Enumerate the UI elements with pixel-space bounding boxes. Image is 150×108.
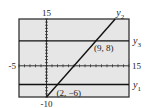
plot-frame	[19, 19, 129, 97]
ymin-label: -10	[41, 99, 53, 108]
plot-svg: 15 -10 -5 15 (9, 8) (2, −6) y1y2y3	[0, 0, 150, 108]
series-y3-label: y3	[132, 35, 141, 49]
xmax-label: 15	[132, 61, 142, 71]
series-y1-label: y1	[132, 79, 141, 93]
annotation-intersection-9-8: (9, 8)	[94, 43, 114, 53]
graphing-calculator-plot: 15 -10 -5 15 (9, 8) (2, −6) y1y2y3	[0, 0, 150, 108]
xmin-label: -5	[9, 61, 17, 71]
ymax-label: 15	[42, 8, 52, 18]
annotation-intersection-2-neg6: (2, −6)	[57, 88, 82, 98]
